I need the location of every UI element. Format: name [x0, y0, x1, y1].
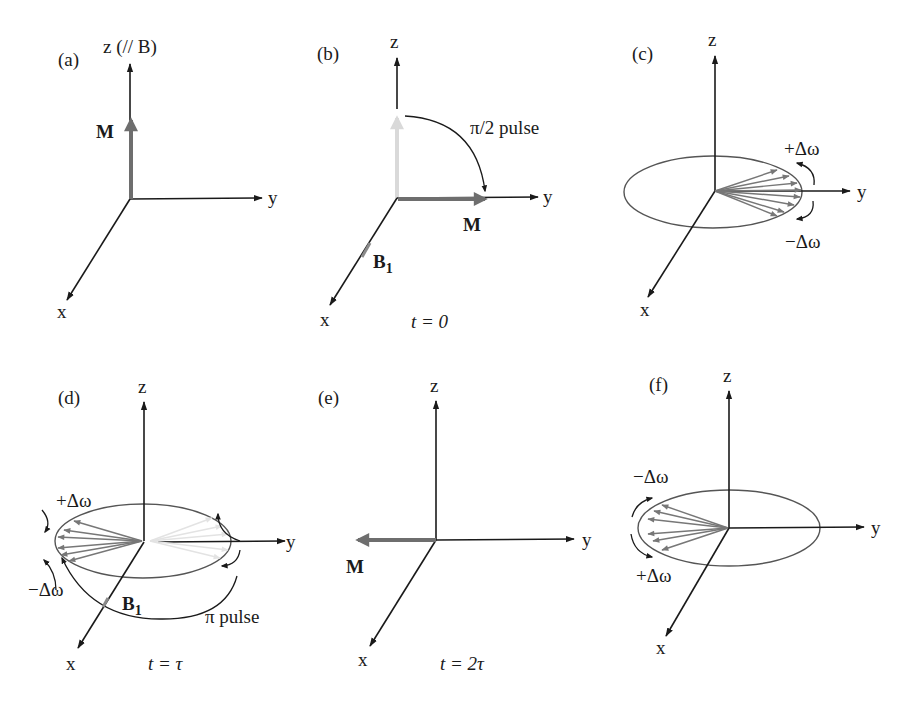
minus-rotation-arrow: [797, 201, 813, 219]
refocusing-spins: [648, 505, 728, 550]
y-axis-label: y: [286, 531, 296, 552]
y-axis-label: y: [582, 529, 592, 550]
y-axis-label: y: [871, 517, 881, 538]
z-axis-label: z (// B): [103, 36, 157, 58]
plus-delta-omega-label: +Δω: [636, 565, 671, 586]
y-axis: [158, 541, 285, 542]
spin-echo-figure: (a) z (// B) y x M (b) z y x M B1 π/2 pu…: [0, 0, 904, 702]
x-axis-label: x: [640, 299, 650, 320]
minus-delta-omega-label: −Δω: [785, 231, 820, 252]
panel-e: (e) z y x M t = 2τ: [318, 375, 592, 674]
panel-b: (b) z y x M B1 π/2 pulse t = 0: [317, 31, 553, 332]
panel-c: (c) z y x +Δω −Δω: [624, 29, 867, 320]
x-axis: [67, 199, 130, 300]
x-axis-label: x: [320, 309, 330, 330]
vector-label: M: [346, 556, 364, 577]
x-axis-label: x: [656, 637, 666, 658]
vector-label: M: [463, 214, 481, 235]
z-axis-label: z: [390, 31, 398, 52]
minus-delta-omega-label: −Δω: [28, 579, 63, 600]
time-label: t = 2τ: [440, 653, 485, 674]
panel-d: (d) z y x +Δω −Δω B1 π pu: [28, 376, 296, 674]
ghost-spins: [150, 518, 228, 558]
z-axis-label: z: [723, 365, 731, 386]
inverted-spins: [58, 521, 142, 561]
z-axis-label: z: [430, 375, 438, 396]
field-label: B1: [373, 251, 393, 276]
panel-label: (b): [317, 43, 339, 65]
y-axis: [130, 198, 262, 199]
vector-label: M: [96, 121, 114, 142]
panel-label: (f): [649, 374, 668, 396]
minus-delta-omega-label: −Δω: [633, 466, 668, 487]
x-axis-label: x: [358, 649, 368, 670]
x-axis: [666, 528, 729, 636]
ghost-plus-arrow: [218, 514, 240, 541]
plus-rotation-arrow: [797, 163, 814, 185]
x-axis-label: x: [66, 653, 76, 674]
panel-label: (e): [318, 387, 339, 409]
panel-label: (d): [58, 387, 80, 409]
b1-field-vector: [362, 243, 370, 257]
time-label: t = 0: [411, 311, 449, 332]
z-axis-label: z: [708, 29, 716, 50]
precession-plane: [624, 156, 802, 228]
y-axis: [436, 539, 574, 540]
y-axis-label: y: [543, 186, 553, 207]
y-axis: [729, 527, 864, 528]
plus-rotation-arrow: [42, 510, 48, 532]
minus-rotation-arrow: [632, 498, 652, 517]
dephasing-spins: [715, 170, 801, 216]
ghost-minus-arrow: [222, 550, 240, 566]
pulse-label: π pulse: [205, 606, 259, 627]
z-axis-label: z: [138, 376, 146, 397]
panel-label: (a): [58, 49, 79, 71]
x-axis: [648, 191, 715, 297]
y-axis-label: y: [857, 181, 867, 202]
panel-f: (f) z y x −Δω +Δω: [631, 365, 881, 658]
x-axis: [370, 540, 436, 646]
pulse-label: π/2 pulse: [470, 117, 539, 138]
x-axis-label: x: [57, 301, 67, 322]
panel-label: (c): [632, 43, 653, 65]
y-axis-label: y: [268, 187, 278, 208]
plus-delta-omega-label: +Δω: [56, 490, 91, 511]
panel-a: (a) z (// B) y x M: [57, 36, 278, 322]
time-label: t = τ: [148, 653, 184, 674]
plus-delta-omega-label: +Δω: [784, 138, 819, 159]
